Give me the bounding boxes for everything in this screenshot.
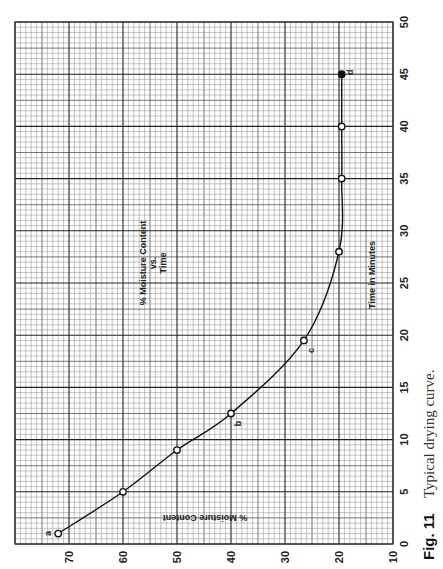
moisture-tick-label: 40 <box>225 551 237 563</box>
data-point-marker <box>228 410 234 416</box>
moisture-tick-label: 70 <box>63 551 75 563</box>
moisture-axis-label: % Moisture Content <box>163 513 248 523</box>
figure-number: Fig. 11 <box>420 513 437 560</box>
point-label: b <box>233 420 243 426</box>
drying-curve-chart: 05101520253035404550 70605040302010 abcd… <box>0 0 443 569</box>
data-point-marker <box>174 447 180 453</box>
moisture-tick-label: 10 <box>387 551 399 563</box>
point-label: a <box>43 530 53 536</box>
time-tick-label: 40 <box>398 120 410 132</box>
time-tick-label: 5 <box>398 489 410 495</box>
time-tick-label: 20 <box>398 329 410 341</box>
time-tick-label: 35 <box>398 172 410 184</box>
data-point-marker <box>339 175 345 181</box>
time-axis-ticks: 05101520253035404550 <box>398 16 410 547</box>
chart-title: % Moisture Contentvs.Time <box>138 221 168 306</box>
chart-title-line: % Moisture Content <box>138 221 148 306</box>
figure-caption: Typical drying curve. <box>421 370 437 499</box>
data-point-marker <box>336 248 342 254</box>
moisture-tick-label: 20 <box>333 551 345 563</box>
data-point-marker <box>120 489 126 495</box>
point-label: c <box>306 348 316 353</box>
moisture-tick-label: 30 <box>279 551 291 563</box>
time-tick-label: 30 <box>398 225 410 237</box>
moisture-tick-label: 50 <box>171 551 183 563</box>
time-tick-label: 25 <box>398 277 410 289</box>
data-point-marker <box>301 337 307 343</box>
time-tick-label: 45 <box>398 68 410 80</box>
point-label: d <box>345 69 355 75</box>
moisture-axis-ticks: 70605040302010 <box>63 551 399 563</box>
chart-title-line: Time <box>158 253 168 274</box>
data-point-marker <box>339 123 345 129</box>
data-point-marker <box>55 530 61 536</box>
time-tick-label: 10 <box>398 433 410 445</box>
moisture-tick-label: 60 <box>117 551 129 563</box>
time-tick-label: 50 <box>398 16 410 28</box>
time-axis-label: Time in Minutes <box>367 241 377 309</box>
time-tick-label: 0 <box>398 541 410 547</box>
chart-title-line: vs. <box>148 257 158 270</box>
time-tick-label: 15 <box>398 381 410 393</box>
